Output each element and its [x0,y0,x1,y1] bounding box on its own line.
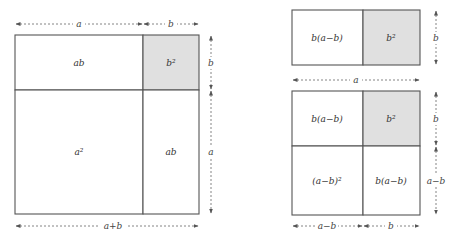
label-b-a-minus-b: b(a−b) [311,33,343,43]
dim-label-bottom-b: b [388,221,394,231]
label-b-squared: b² [166,58,176,68]
label-b-squared: b² [386,33,396,43]
left-figure: ab b² a² ab a b b a a+b [15,18,217,232]
label-b-a-minus-b-bottom: b(a−b) [375,176,407,186]
dim-label-bottom-a-plus-b: a+b [104,221,123,231]
algebra-area-diagram: ab b² a² ab a b b a a+b b(a−b) b² b a [0,0,453,242]
right-top-figure: b(a−b) b² b a [292,10,442,86]
dim-label-top-a: a [76,19,81,29]
dim-label-right-b: b [433,114,439,124]
label-a-minus-b-squared: (a−b)² [312,176,342,186]
label-a-squared: a² [75,147,84,157]
dim-label-bottom-a-minus-b: a−b [318,221,337,231]
dim-label-right-b: b [208,58,214,68]
dim-label-right-b: b [433,33,439,43]
label-b-squared: b² [386,114,396,124]
dim-label-bottom-a: a [353,75,358,85]
right-bottom-figure: b(a−b) b² (a−b)² b(a−b) b a−b a−b b [292,91,447,232]
label-ab-top: ab [73,58,84,68]
dim-label-right-a: a [208,147,213,157]
label-b-a-minus-b-top: b(a−b) [311,114,343,124]
label-ab-bottom: ab [165,147,176,157]
dim-label-top-b: b [168,19,174,29]
dim-label-right-a-minus-b: a−b [427,176,446,186]
